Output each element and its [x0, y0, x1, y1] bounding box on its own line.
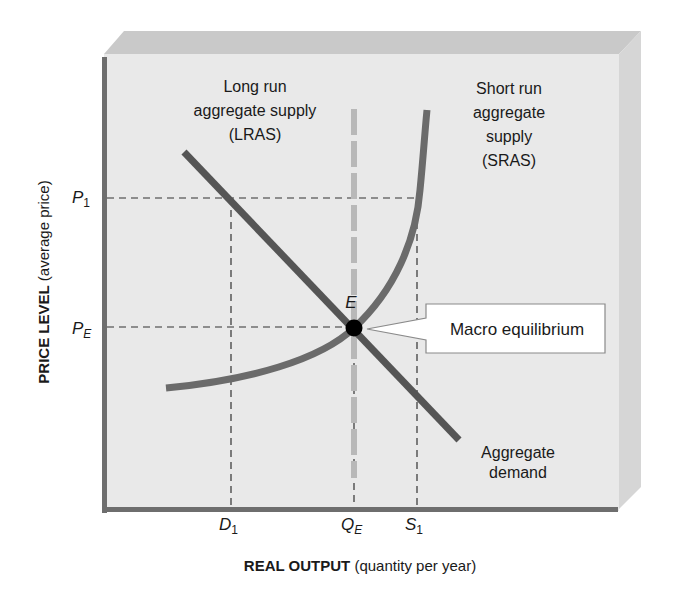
macro-equilibrium-chart: E Macro equilibrium Long run aggregate s… [0, 0, 674, 598]
equilibrium-label: E [345, 293, 357, 312]
svg-text:Aggregate: Aggregate [481, 444, 555, 461]
y-axis-title: PRICE LEVEL (average price) [35, 180, 52, 383]
callout-text: Macro equilibrium [450, 320, 584, 339]
svg-text:(LRAS): (LRAS) [229, 126, 281, 143]
svg-text:aggregate supply: aggregate supply [194, 102, 317, 119]
svg-text:Long run: Long run [223, 78, 286, 95]
box-top-bevel [104, 31, 641, 54]
svg-text:aggregate: aggregate [473, 104, 545, 121]
svg-text:supply: supply [486, 128, 532, 145]
pe-tick-label: PE [72, 319, 92, 341]
box-right-side [617, 31, 641, 511]
d1-tick-label: D1 [219, 515, 238, 537]
x-axis-title: REAL OUTPUT (quantity per year) [244, 557, 476, 574]
svg-text:(SRAS): (SRAS) [482, 152, 536, 169]
s1-tick-label: S1 [405, 515, 423, 537]
p1-tick-label: P1 [72, 188, 90, 210]
svg-text:Short run: Short run [476, 80, 542, 97]
y-axis-line [102, 57, 107, 513]
equilibrium-point [346, 320, 363, 337]
qe-tick-label: QE [341, 515, 363, 537]
x-axis-line [102, 507, 618, 512]
svg-text:demand: demand [489, 464, 547, 481]
plot-panel [104, 54, 619, 511]
